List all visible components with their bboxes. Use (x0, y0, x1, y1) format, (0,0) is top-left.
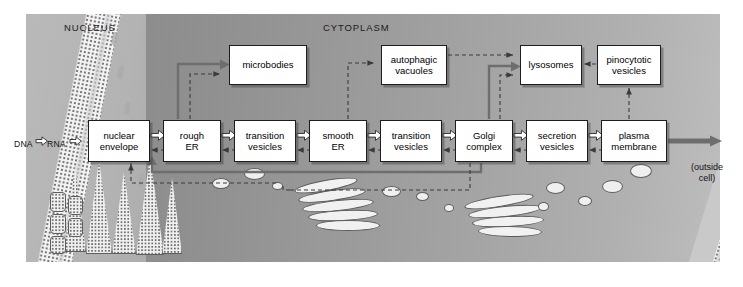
box-golgi-complex[interactable]: Golgi complex (455, 120, 513, 162)
box-plasma-membrane-line2: membrane (611, 141, 656, 153)
box-transition-vesicles-1[interactable]: transition vesicles (234, 120, 296, 162)
box-plasma-membrane-line1: plasma (611, 130, 656, 142)
outside-cell-label: (outside cell) (676, 162, 738, 184)
box-lysosomes-line1: lysosomes (529, 59, 574, 71)
box-secretion-vesicles[interactable]: secretion vesicles (526, 120, 588, 162)
box-smooth-er-line2: ER (322, 141, 353, 153)
box-transition-vesicles-1-line2: vesicles (246, 141, 285, 153)
box-pinocytotic-vesicles-line1: pinocytotic (607, 54, 652, 66)
box-nuclear-envelope-line1: nuclear (100, 130, 139, 142)
box-transition-vesicles-1-line1: transition (246, 130, 285, 142)
box-lysosomes[interactable]: lysosomes (520, 45, 582, 85)
outside-cell-label-line1: (outside (676, 162, 738, 173)
box-pinocytotic-vesicles-line2: vesicles (607, 65, 652, 77)
box-smooth-er-line1: smooth (322, 130, 353, 142)
box-plasma-membrane[interactable]: plasma membrane (601, 120, 667, 162)
box-microbodies[interactable]: microbodies (229, 45, 307, 85)
box-transition-vesicles-2[interactable]: transition vesicles (380, 120, 442, 162)
box-golgi-complex-line1: Golgi (466, 130, 501, 142)
box-autophagic-vacuoles[interactable]: autophagic vacuoles (381, 45, 447, 85)
box-transition-vesicles-2-line2: vesicles (392, 141, 431, 153)
box-nuclear-envelope-line2: envelope (100, 141, 139, 153)
rna-label: RNA (47, 139, 66, 149)
box-smooth-er[interactable]: smooth ER (309, 120, 367, 162)
box-rough-er-line1: rough (180, 130, 204, 142)
box-pinocytotic-vesicles[interactable]: pinocytotic vesicles (597, 45, 661, 85)
outside-cell-label-line2: cell) (676, 173, 738, 184)
box-golgi-complex-line2: complex (466, 141, 501, 153)
box-nuclear-envelope[interactable]: nuclear envelope (88, 120, 150, 162)
box-autophagic-vacuoles-line1: autophagic (391, 54, 437, 66)
dna-label: DNA (14, 139, 33, 149)
box-microbodies-line1: microbodies (242, 59, 293, 71)
box-transition-vesicles-2-line1: transition (392, 130, 431, 142)
box-rough-er[interactable]: rough ER (163, 120, 221, 162)
box-secretion-vesicles-line2: vesicles (538, 141, 577, 153)
box-rough-er-line2: ER (180, 141, 204, 153)
diagram-canvas: NUCLEUS CYTOPLASM DNA RNA (outside cell) (0, 0, 743, 287)
nucleus-label: NUCLEUS (64, 22, 116, 33)
cytoplasm-label: CYTOPLASM (323, 22, 390, 33)
box-secretion-vesicles-line1: secretion (538, 130, 577, 142)
box-autophagic-vacuoles-line2: vacuoles (391, 65, 437, 77)
